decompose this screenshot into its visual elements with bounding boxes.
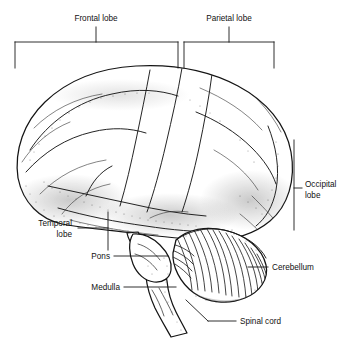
- occipital-lobe-bracket: [294, 140, 302, 230]
- label-spinal-cord: Spinal cord: [240, 317, 281, 326]
- label-frontal-lobe: Frontal lobe: [74, 14, 118, 23]
- cerebrum-illustration: [10, 66, 300, 240]
- parietal-lobe-bracket: [184, 27, 274, 68]
- label-occipital-lobe-line2: lobe: [305, 191, 321, 200]
- label-cerebellum: Cerebellum: [272, 263, 314, 272]
- label-parietal-lobe: Parietal lobe: [206, 14, 252, 23]
- label-medulla: Medulla: [91, 283, 120, 292]
- label-occipital-lobe-line1: Occipital: [305, 180, 337, 189]
- frontal-lobe-bracket: [15, 27, 178, 68]
- label-temporal-lobe-line1: Temporal: [38, 219, 72, 228]
- label-pons: Pons: [91, 252, 110, 261]
- pons-outline: [130, 234, 172, 282]
- brain-anatomy-figure: Frontal lobe Parietal lobe Occipital lob…: [0, 0, 345, 340]
- spinal-cord-leader-diagonal: [186, 300, 208, 321]
- cerebellum-illustration: [172, 228, 268, 308]
- label-temporal-lobe-line2: lobe: [57, 230, 73, 239]
